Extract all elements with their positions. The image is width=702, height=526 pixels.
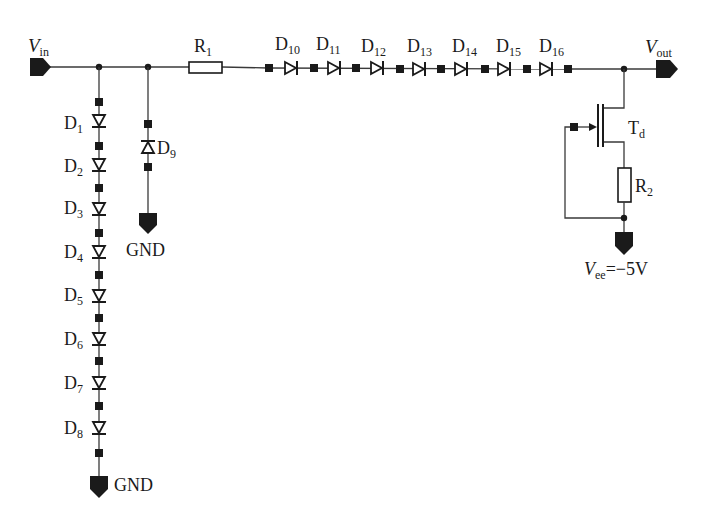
svg-text:Td: Td bbox=[628, 118, 645, 141]
svg-text:D14: D14 bbox=[452, 36, 477, 59]
resistor-r2: R2 bbox=[618, 168, 653, 202]
resistor-r1: R1 bbox=[189, 36, 222, 73]
svg-text:D10: D10 bbox=[275, 34, 300, 57]
svg-text:D5: D5 bbox=[64, 285, 83, 308]
diode-d1: D1 bbox=[64, 113, 106, 136]
diode-d5: D5 bbox=[64, 285, 106, 308]
vee-symbol bbox=[615, 232, 633, 255]
svg-text:D15: D15 bbox=[496, 36, 521, 59]
svg-text:D7: D7 bbox=[64, 373, 83, 396]
diode-d9: D9 bbox=[141, 138, 176, 161]
svg-text:D3: D3 bbox=[64, 198, 83, 221]
diode-d8: D8 bbox=[64, 418, 106, 441]
svg-text:D4: D4 bbox=[64, 242, 83, 265]
vee-label: Vee=−5V bbox=[584, 259, 648, 282]
gnd-left-symbol: GND bbox=[90, 475, 153, 498]
diode-d3: D3 bbox=[64, 198, 106, 221]
svg-text:D8: D8 bbox=[64, 418, 83, 441]
svg-text:D2: D2 bbox=[64, 156, 83, 179]
diode-d16: D16 bbox=[539, 36, 564, 76]
diode-d13: D13 bbox=[407, 36, 432, 76]
vout-port: Vout bbox=[645, 36, 678, 78]
diode-d15: D15 bbox=[496, 36, 521, 76]
output-stage: Td R2 Vee=−5V bbox=[565, 69, 653, 282]
vin-label: Vin bbox=[28, 35, 49, 59]
series-diode-chain: D10 D11 D12 D13 D14 D15 D16 bbox=[265, 34, 572, 76]
svg-text:D11: D11 bbox=[316, 34, 341, 57]
junction-node-vee bbox=[621, 215, 627, 221]
shunt-diode-stack: D1 D2 D3 D4 D5 D6 D7 D8 bbox=[64, 67, 106, 476]
svg-text:D1: D1 bbox=[64, 113, 83, 136]
vout-label: Vout bbox=[645, 36, 673, 60]
diode-d7: D7 bbox=[64, 373, 106, 396]
diode-d10: D10 bbox=[275, 34, 300, 75]
diode-d14: D14 bbox=[452, 36, 477, 76]
diode-d4: D4 bbox=[64, 242, 106, 265]
svg-text:D13: D13 bbox=[407, 36, 432, 59]
svg-text:D6: D6 bbox=[64, 329, 83, 352]
svg-text:D12: D12 bbox=[361, 36, 386, 59]
svg-text:R1: R1 bbox=[194, 36, 212, 59]
gnd-left-label: GND bbox=[114, 475, 153, 495]
svg-text:D16: D16 bbox=[539, 36, 564, 59]
circuit-diagram: Vin R1 D10 D11 D12 D13 bbox=[0, 0, 702, 526]
diode-d12: D12 bbox=[361, 36, 386, 75]
svg-text:R2: R2 bbox=[635, 176, 653, 199]
diode-d11: D11 bbox=[316, 34, 341, 75]
diode-d2: D2 bbox=[64, 156, 106, 179]
svg-text:D9: D9 bbox=[157, 138, 176, 161]
gnd-mid-symbol bbox=[139, 213, 157, 234]
transistor-td: Td bbox=[570, 104, 645, 147]
vin-port: Vin bbox=[28, 35, 51, 76]
diode-d6: D6 bbox=[64, 329, 106, 352]
gnd-mid-label: GND bbox=[126, 240, 165, 260]
clamp-diode-branch: D9 GND bbox=[126, 67, 176, 260]
